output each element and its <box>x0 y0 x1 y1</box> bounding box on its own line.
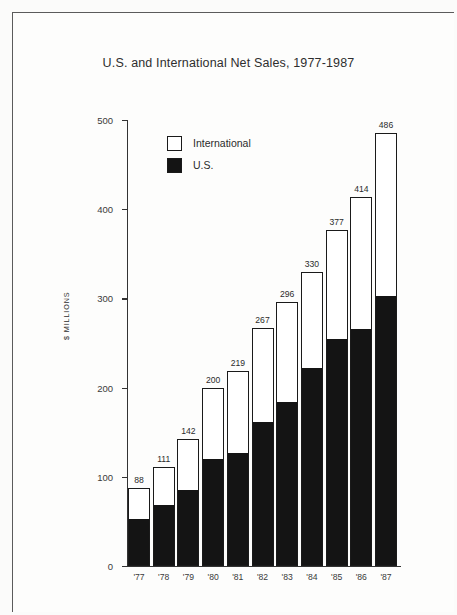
bar-segment-us[interactable] <box>253 422 273 565</box>
x-axis-tick-label: '83 <box>282 572 293 582</box>
bar-group[interactable]: 486'87 <box>375 120 397 566</box>
x-axis-tick-label: '78 <box>158 572 169 582</box>
bar-value-label: 414 <box>354 184 368 194</box>
y-axis-tick-label: 0 <box>108 561 113 572</box>
legend-label-international: International <box>193 137 251 149</box>
bar-segment-us[interactable] <box>154 505 174 565</box>
bar-segment-us[interactable] <box>376 296 396 565</box>
bar-value-label: 267 <box>255 315 269 325</box>
x-axis-line <box>127 566 401 567</box>
bar-group[interactable]: 111'78 <box>153 120 175 566</box>
bar-segment-us[interactable] <box>203 459 223 565</box>
x-axis-tick-label: '86 <box>356 572 367 582</box>
black-square-icon <box>167 158 182 173</box>
y-axis-tick-label: 400 <box>97 204 113 215</box>
x-axis-tick-label: '82 <box>257 572 268 582</box>
bar-stack-international[interactable] <box>153 467 175 566</box>
bar-value-label: 200 <box>206 375 220 385</box>
bar-group[interactable]: 296'83 <box>276 120 298 566</box>
y-axis-tick-label: 500 <box>97 115 113 126</box>
bar-group[interactable]: 267'82 <box>252 120 274 566</box>
bar-segment-us[interactable] <box>277 402 297 565</box>
legend-item-international: International <box>167 132 251 154</box>
x-axis-tick-label: '80 <box>207 572 218 582</box>
bar-value-label: 219 <box>231 358 245 368</box>
white-square-icon <box>167 136 182 151</box>
chart-title: U.S. and International Net Sales, 1977-1… <box>0 56 457 70</box>
bar-stack-international[interactable] <box>375 133 397 567</box>
bar-group[interactable]: 414'86 <box>350 120 372 566</box>
y-axis-tick-label: 100 <box>97 471 113 482</box>
y-axis-tick-label: 200 <box>97 382 113 393</box>
bar-segment-us[interactable] <box>129 519 149 565</box>
bar-stack-international[interactable] <box>350 197 372 566</box>
bar-group[interactable]: 330'84 <box>301 120 323 566</box>
bar-stack-international[interactable] <box>252 328 274 566</box>
x-axis-tick-label: '84 <box>306 572 317 582</box>
bar-stack-international[interactable] <box>276 302 298 566</box>
bar-value-label: 330 <box>305 259 319 269</box>
bar-segment-us[interactable] <box>351 329 371 565</box>
bar-stack-international[interactable] <box>128 488 150 566</box>
bar-stack-international[interactable] <box>301 272 323 566</box>
bar-stack-international[interactable] <box>227 371 249 566</box>
bar-segment-us[interactable] <box>327 339 347 565</box>
bar-group[interactable]: 377'85 <box>326 120 348 566</box>
bar-segment-us[interactable] <box>228 453 248 565</box>
bar-segment-us[interactable] <box>178 490 198 565</box>
plot-area: 0100200300400500 88'77111'78142'79200'80… <box>128 120 400 566</box>
bar-value-label: 377 <box>329 217 343 227</box>
bar-stack-international[interactable] <box>177 439 199 566</box>
net-sales-stacked-bar-chart: U.S. and International Net Sales, 1977-1… <box>0 0 457 615</box>
bar-value-label: 88 <box>134 475 144 485</box>
x-axis-tick-label: '79 <box>183 572 194 582</box>
bar-value-label: 296 <box>280 289 294 299</box>
bar-value-label: 486 <box>379 120 393 130</box>
x-axis-tick-label: '87 <box>380 572 391 582</box>
x-axis-tick-label: '81 <box>232 572 243 582</box>
bar-stack-international[interactable] <box>202 388 224 566</box>
bar-group[interactable]: 200'80 <box>202 120 224 566</box>
bar-segment-us[interactable] <box>302 368 322 565</box>
chart-legend: International U.S. <box>167 132 251 176</box>
bar-group[interactable]: 142'79 <box>177 120 199 566</box>
bar-value-label: 142 <box>181 426 195 436</box>
bar-group[interactable]: 219'81 <box>227 120 249 566</box>
y-axis-tick: 0 <box>122 566 128 567</box>
bar-value-label: 111 <box>157 454 170 464</box>
legend-item-us: U.S. <box>167 154 251 176</box>
y-axis-title: $ MILLIONS <box>62 291 71 340</box>
legend-label-us: U.S. <box>193 159 213 171</box>
x-axis-tick-label: '77 <box>133 572 144 582</box>
y-axis-tick-label: 300 <box>97 293 113 304</box>
bar-group[interactable]: 88'77 <box>128 120 150 566</box>
x-axis-tick-label: '85 <box>331 572 342 582</box>
bar-stack-international[interactable] <box>326 230 348 566</box>
